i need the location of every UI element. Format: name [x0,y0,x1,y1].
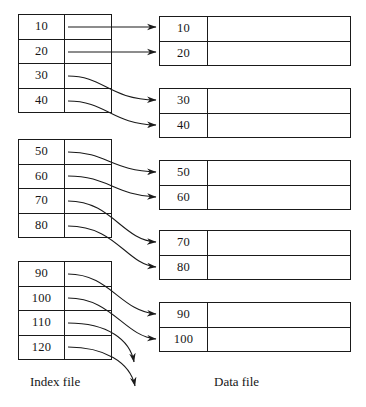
data-key-cell: 10 [160,17,208,41]
index-entry-row: 50 [19,140,111,165]
index-key-cell: 20 [19,40,65,64]
data-block-2: 30 40 [159,88,351,138]
index-key-cell: 50 [19,140,65,164]
data-record-row: 70 [160,231,350,256]
data-key-cell: 100 [160,328,208,353]
index-entry-row: 20 [19,40,111,65]
index-entry-row: 80 [19,214,111,239]
data-block-3: 50 60 [159,160,351,210]
index-entry-row: 70 [19,189,111,214]
index-block-2: 50 60 70 80 [18,139,112,238]
data-block-5: 90 100 [159,302,351,352]
index-entry-row: 40 [19,89,111,114]
data-key-cell: 60 [160,186,208,211]
index-key-cell: 120 [19,336,65,361]
index-block-1: 10 20 30 40 [18,14,112,113]
data-key-cell: 40 [160,114,208,139]
data-record-row: 40 [160,114,350,139]
index-block-3: 90 100 110 120 [18,261,112,360]
data-record-row: 90 [160,303,350,328]
index-entry-row: 60 [19,165,111,190]
index-key-cell: 40 [19,89,65,114]
data-file-label: Data file [214,374,259,390]
data-record-row: 60 [160,186,350,211]
index-entry-row: 120 [19,336,111,361]
data-record-row: 20 [160,42,350,67]
data-record-row: 100 [160,328,350,353]
data-key-cell: 80 [160,256,208,281]
data-record-row: 80 [160,256,350,281]
index-data-file-diagram: 10 20 30 40 50 60 70 80 [0,0,366,407]
index-key-cell: 70 [19,189,65,213]
index-key-cell: 10 [19,15,65,39]
index-file-label: Index file [30,374,80,390]
data-record-row: 50 [160,161,350,186]
data-record-row: 30 [160,89,350,114]
index-key-cell: 90 [19,262,65,286]
index-key-cell: 60 [19,165,65,189]
data-key-cell: 20 [160,42,208,67]
data-key-cell: 50 [160,161,208,185]
index-entry-row: 10 [19,15,111,40]
data-block-1: 10 20 [159,16,351,66]
index-entry-row: 100 [19,287,111,312]
data-record-row: 10 [160,17,350,42]
index-key-cell: 30 [19,64,65,88]
data-block-4: 70 80 [159,230,351,280]
index-entry-row: 110 [19,311,111,336]
data-key-cell: 90 [160,303,208,327]
index-key-cell: 100 [19,287,65,311]
index-entry-row: 90 [19,262,111,287]
index-key-cell: 80 [19,214,65,239]
data-key-cell: 70 [160,231,208,255]
index-key-cell: 110 [19,311,65,335]
data-key-cell: 30 [160,89,208,113]
index-entry-row: 30 [19,64,111,89]
